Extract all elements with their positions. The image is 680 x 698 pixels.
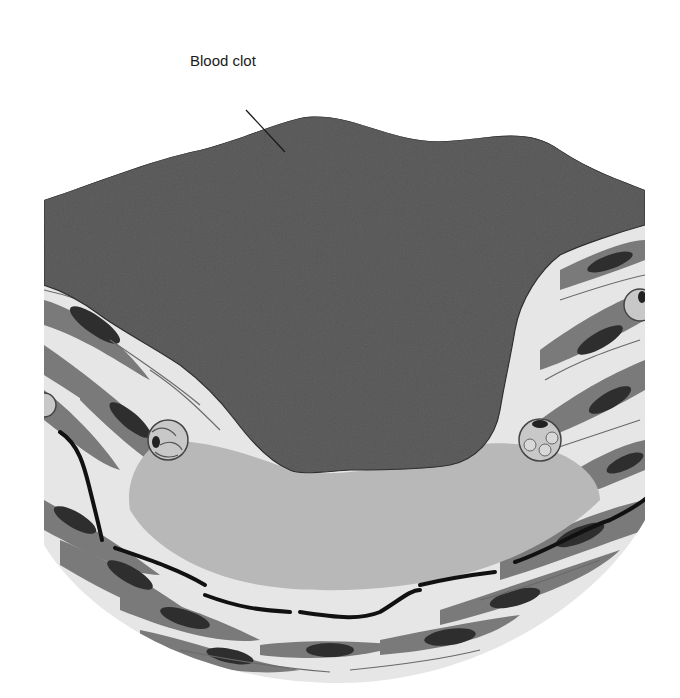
foam-cell-edge-left <box>32 393 56 417</box>
foam-cell-top-right <box>624 289 656 321</box>
foam-cell-left <box>148 420 188 460</box>
blood-clot-illustration: Blood clot <box>0 0 680 698</box>
vessel-cross-section <box>0 0 680 698</box>
blood-clot-label: Blood clot <box>190 52 256 69</box>
foam-cell-right <box>519 419 561 461</box>
